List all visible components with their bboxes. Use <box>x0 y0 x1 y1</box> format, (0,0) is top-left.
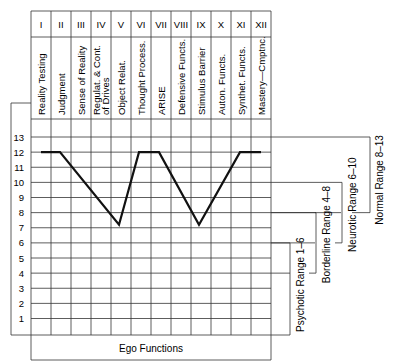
column-label: Sense of Reality <box>76 46 87 115</box>
ego-function-chart: IIIIIIIVVVIVIIVIIIIXXXIXIIReality Testin… <box>0 0 405 364</box>
column-roman: VI <box>137 19 146 30</box>
y-tick-label: 12 <box>13 147 24 158</box>
column-label: Object Relat. <box>116 60 127 115</box>
column-label: Regulat. & Cont.of Drives <box>91 45 111 115</box>
column-roman: XI <box>237 19 246 30</box>
column-label: Judgment <box>56 73 67 115</box>
column-label: Stimulus Barrier <box>196 47 207 115</box>
x-axis-label: Ego Functions <box>119 343 183 354</box>
column-roman: IX <box>197 19 207 30</box>
column-roman: VIII <box>174 19 188 30</box>
y-tick-label: 5 <box>19 253 24 264</box>
y-tick-label: 7 <box>19 222 24 233</box>
neurotic-range-label: Neurotic Range 6–10 <box>347 157 358 252</box>
y-tick-label: 1 <box>19 313 24 324</box>
column-label: Mastery—Cmptnc. <box>256 36 267 115</box>
borderline-range-label: Borderline Range 4–8 <box>321 185 332 283</box>
column-roman: III <box>77 19 85 30</box>
column-label: Synthet. Functs. <box>236 46 247 115</box>
y-tick-label: 9 <box>19 192 24 203</box>
range-labels: Normal Range 8–13Neurotic Range 6–10Bord… <box>295 135 385 332</box>
psychotic-range-label: Psychotic Range 1–6 <box>295 237 306 332</box>
normal-range-label: Normal Range 8–13 <box>374 135 385 225</box>
column-roman: II <box>58 19 63 30</box>
column-roman: V <box>118 19 125 30</box>
column-roman: I <box>40 19 43 30</box>
column-label: ARISE <box>156 86 167 115</box>
y-tick-label: 4 <box>19 268 24 279</box>
y-tick-label: 11 <box>14 162 24 173</box>
column-roman: VII <box>155 19 167 30</box>
y-tick-label: 8 <box>19 207 24 218</box>
y-tick-label: 10 <box>13 177 24 188</box>
column-label: Reality Testing <box>36 53 47 115</box>
column-roman: XII <box>255 19 267 30</box>
y-tick-label: 3 <box>19 283 24 294</box>
y-tick-label: 6 <box>19 237 24 248</box>
y-tick-label: 13 <box>13 132 24 143</box>
column-label: Defensive Functs. <box>176 39 187 115</box>
y-tick-label: 2 <box>19 298 24 309</box>
y-axis-ticks: 12345678910111213 <box>13 132 24 325</box>
column-label: Auton. Functs. <box>216 54 227 115</box>
column-label: Thought Process. <box>136 41 147 115</box>
column-roman: X <box>218 19 225 30</box>
column-roman: IV <box>97 19 107 30</box>
